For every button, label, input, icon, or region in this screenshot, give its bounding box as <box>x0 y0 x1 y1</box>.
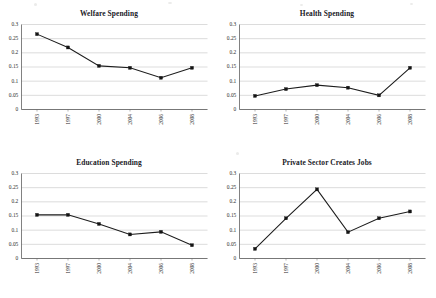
chart-panel-welfare-spending: Welfare Spending 00.050.10.150.20.250.31… <box>0 0 218 149</box>
y-axis-tick-label: 0.2 <box>12 198 19 204</box>
chart-svg-welfare-spending: 00.050.10.150.20.250.3199319972000200420… <box>0 20 218 149</box>
x-axis-tick-label: 1997 <box>65 114 71 125</box>
chart-panel-education-spending: Education Spending 00.050.10.150.20.250.… <box>0 149 218 298</box>
x-axis-tick-label: 2008 <box>407 114 413 125</box>
x-axis-tick-label: 1993 <box>252 114 258 125</box>
y-axis-tick-label: 0.2 <box>12 49 19 55</box>
y-axis-tick-label: 0 <box>16 255 19 261</box>
x-axis-tick-label: 2004 <box>345 114 351 125</box>
y-axis-tick-label: 0 <box>234 255 237 261</box>
data-point-marker <box>315 188 318 191</box>
x-axis-tick-label: 2004 <box>127 114 133 125</box>
y-axis-tick-label: 0.1 <box>230 78 237 84</box>
data-point-marker <box>253 247 256 250</box>
plot-area-health-spending: 00.050.10.150.20.250.3199319972000200420… <box>218 20 436 149</box>
scanned-chart-page: { "page": { "title": "Four-panel spendin… <box>0 0 436 298</box>
data-point-marker <box>128 233 131 236</box>
x-axis-tick-label: 2006 <box>376 263 382 274</box>
data-point-marker <box>408 66 411 69</box>
y-axis-tick-label: 0 <box>16 106 19 112</box>
x-axis-tick-label: 2000 <box>314 114 320 125</box>
chart-title-private-sector-creates-jobs: Private Sector Creates Jobs <box>218 158 436 167</box>
y-axis-tick-label: 0.05 <box>227 241 237 247</box>
data-point-marker <box>128 66 131 69</box>
x-axis-tick-label: 1997 <box>65 263 71 274</box>
y-axis-tick-label: 0.3 <box>230 21 237 27</box>
data-point-marker <box>35 213 38 216</box>
y-axis-tick-label: 0.1 <box>230 227 237 233</box>
data-point-marker <box>284 88 287 91</box>
data-point-marker <box>97 222 100 225</box>
x-axis-tick-label: 2008 <box>189 114 195 125</box>
x-axis-tick-label: 2008 <box>189 263 195 274</box>
chart-svg-health-spending: 00.050.10.150.20.250.3199319972000200420… <box>218 20 436 149</box>
data-point-marker <box>377 217 380 220</box>
x-axis-tick-label: 2000 <box>314 263 320 274</box>
x-axis-tick-label: 1997 <box>283 263 289 274</box>
x-axis-tick-label: 2006 <box>158 263 164 274</box>
y-axis-tick-label: 0.15 <box>9 63 19 69</box>
y-axis-tick-label: 0.2 <box>230 198 237 204</box>
data-point-marker <box>346 231 349 234</box>
chart-title-health-spending: Health Spending <box>218 9 436 18</box>
y-axis-tick-label: 0.15 <box>9 212 19 218</box>
x-axis-tick-label: 2000 <box>96 114 102 125</box>
plot-area-private-sector-creates-jobs: 00.050.10.150.20.250.3199319972000200420… <box>218 169 436 298</box>
x-axis-tick-label: 2006 <box>158 114 164 125</box>
y-axis-tick-label: 0.3 <box>230 170 237 176</box>
y-axis-tick-label: 0 <box>234 106 237 112</box>
chart-svg-education-spending: 00.050.10.150.20.250.3199319972000200420… <box>0 169 218 298</box>
chart-grid: Welfare Spending 00.050.10.150.20.250.31… <box>0 0 436 298</box>
x-axis-tick-label: 2004 <box>127 263 133 274</box>
data-point-marker <box>377 94 380 97</box>
series-line <box>255 189 410 249</box>
data-point-marker <box>284 217 287 220</box>
x-axis-tick-label: 1993 <box>252 263 258 274</box>
plot-area-welfare-spending: 00.050.10.150.20.250.3199319972000200420… <box>0 20 218 149</box>
y-axis-tick-label: 0.05 <box>9 92 19 98</box>
x-axis-tick-label: 1993 <box>34 263 40 274</box>
chart-title-education-spending: Education Spending <box>0 158 218 167</box>
y-axis-tick-label: 0.1 <box>12 227 19 233</box>
chart-svg-private-sector-creates-jobs: 00.050.10.150.20.250.3199319972000200420… <box>218 169 436 298</box>
y-axis-tick-label: 0.3 <box>12 170 19 176</box>
data-point-marker <box>346 86 349 89</box>
y-axis-tick-label: 0.05 <box>9 241 19 247</box>
data-point-marker <box>315 84 318 87</box>
data-point-marker <box>408 210 411 213</box>
chart-panel-health-spending: Health Spending 00.050.10.150.20.250.319… <box>218 0 436 149</box>
data-point-marker <box>190 244 193 247</box>
x-axis-tick-label: 2000 <box>96 263 102 274</box>
series-line <box>255 68 410 96</box>
series-line <box>37 34 192 78</box>
x-axis-tick-label: 1997 <box>283 114 289 125</box>
data-point-marker <box>159 230 162 233</box>
chart-panel-private-sector-creates-jobs: Private Sector Creates Jobs 00.050.10.15… <box>218 149 436 298</box>
data-point-marker <box>253 94 256 97</box>
y-axis-tick-label: 0.25 <box>227 184 237 190</box>
y-axis-tick-label: 0.05 <box>227 92 237 98</box>
y-axis-tick-label: 0.3 <box>12 21 19 27</box>
y-axis-tick-label: 0.25 <box>9 35 19 41</box>
x-axis-tick-label: 2008 <box>407 263 413 274</box>
data-point-marker <box>97 64 100 67</box>
chart-title-welfare-spending: Welfare Spending <box>0 9 218 18</box>
y-axis-tick-label: 0.15 <box>227 212 237 218</box>
data-point-marker <box>190 66 193 69</box>
data-point-marker <box>35 33 38 36</box>
y-axis-tick-label: 0.25 <box>227 35 237 41</box>
plot-area-education-spending: 00.050.10.150.20.250.3199319972000200420… <box>0 169 218 298</box>
y-axis-tick-label: 0.15 <box>227 63 237 69</box>
x-axis-tick-label: 2006 <box>376 114 382 125</box>
x-axis-tick-label: 1993 <box>34 114 40 125</box>
x-axis-tick-label: 2004 <box>345 263 351 274</box>
data-point-marker <box>66 46 69 49</box>
y-axis-tick-label: 0.2 <box>230 49 237 55</box>
y-axis-tick-label: 0.25 <box>9 184 19 190</box>
data-point-marker <box>66 213 69 216</box>
y-axis-tick-label: 0.1 <box>12 78 19 84</box>
data-point-marker <box>159 76 162 79</box>
